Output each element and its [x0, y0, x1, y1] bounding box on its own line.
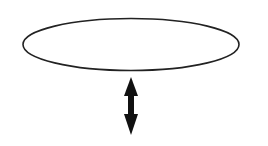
plane-ellipse [23, 19, 239, 71]
vertical-double-arrow-icon [124, 77, 138, 135]
diagram-canvas [0, 0, 268, 146]
